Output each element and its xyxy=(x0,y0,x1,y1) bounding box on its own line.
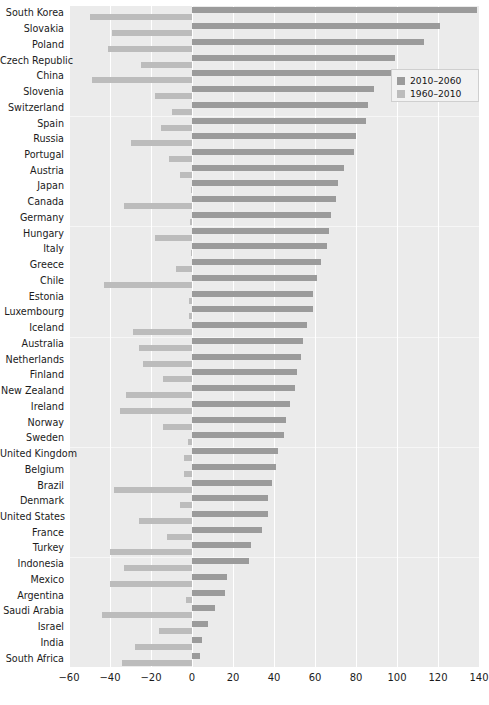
bar-2010-2060 xyxy=(192,480,272,486)
y-tick-label: Norway xyxy=(0,418,64,428)
bar-2010-2060 xyxy=(192,354,301,360)
y-tick-label: Brazil xyxy=(0,481,64,491)
bar-group xyxy=(69,494,479,510)
bar-2010-2060 xyxy=(192,432,284,438)
bar-group xyxy=(69,447,479,463)
bar-2010-2060 xyxy=(192,653,200,659)
bar-group xyxy=(69,132,479,148)
y-tick-label: Sweden xyxy=(0,433,64,443)
bar-2010-2060 xyxy=(192,118,366,124)
bar-1960-2010 xyxy=(184,471,192,477)
bar-2010-2060 xyxy=(192,70,393,76)
bar-2010-2060 xyxy=(192,196,336,202)
bar-group xyxy=(69,337,479,353)
bar-group xyxy=(69,604,479,620)
x-tick-label: 40 xyxy=(268,672,281,683)
legend-swatch-1960-2010 xyxy=(397,90,405,98)
bar-group xyxy=(69,148,479,164)
bar-1960-2010 xyxy=(108,46,192,52)
bar-1960-2010 xyxy=(139,518,192,524)
bar-group xyxy=(69,258,479,274)
bar-group xyxy=(69,557,479,573)
y-tick-label: Indonesia xyxy=(0,559,64,569)
y-axis-labels: South KoreaSlovakiaPolandCzech RepublicC… xyxy=(0,6,64,667)
bar-group xyxy=(69,541,479,557)
y-tick-label: France xyxy=(0,528,64,538)
bar-2010-2060 xyxy=(192,605,215,611)
bar-1960-2010 xyxy=(124,203,192,209)
x-tick-label: 100 xyxy=(387,672,406,683)
bar-group xyxy=(69,211,479,227)
bar-2010-2060 xyxy=(192,243,327,249)
y-tick-label: Poland xyxy=(0,40,64,50)
bar-2010-2060 xyxy=(192,23,440,29)
bar-1960-2010 xyxy=(189,298,192,304)
bar-1960-2010 xyxy=(135,644,192,650)
bar-2010-2060 xyxy=(192,511,268,517)
y-tick-label: Hungary xyxy=(0,229,64,239)
x-axis-labels: −60−40−20020406080100120140 xyxy=(69,668,479,688)
bar-2010-2060 xyxy=(192,275,317,281)
bar-group xyxy=(69,274,479,290)
y-tick-label: Ireland xyxy=(0,402,64,412)
y-tick-label: Italy xyxy=(0,244,64,254)
y-tick-label: Chile xyxy=(0,276,64,286)
y-tick-label: Austria xyxy=(0,166,64,176)
bar-2010-2060 xyxy=(192,385,295,391)
bar-1960-2010 xyxy=(159,628,192,634)
bar-group xyxy=(69,588,479,604)
bar-2010-2060 xyxy=(192,322,307,328)
bar-1960-2010 xyxy=(114,487,192,493)
y-tick-label: Estonia xyxy=(0,292,64,302)
x-tick-label: 80 xyxy=(350,672,363,683)
bar-1960-2010 xyxy=(122,660,192,666)
y-tick-label: Japan xyxy=(0,181,64,191)
bar-group xyxy=(69,37,479,53)
bar-2010-2060 xyxy=(192,637,202,643)
y-tick-label: New Zealand xyxy=(0,386,64,396)
bar-2010-2060 xyxy=(192,417,286,423)
y-tick-label: Luxembourg xyxy=(0,307,64,317)
bar-2010-2060 xyxy=(192,86,374,92)
bar-group xyxy=(69,22,479,38)
plot-area xyxy=(69,6,479,667)
bar-group xyxy=(69,195,479,211)
bar-group xyxy=(69,651,479,667)
bar-group xyxy=(69,525,479,541)
y-tick-label: Finland xyxy=(0,370,64,380)
bar-2010-2060 xyxy=(192,401,290,407)
bar-group xyxy=(69,415,479,431)
bar-1960-2010 xyxy=(155,93,192,99)
y-tick-label: India xyxy=(0,638,64,648)
legend-label-2010-2060: 2010–2060 xyxy=(410,75,461,86)
y-tick-label: Germany xyxy=(0,213,64,223)
y-tick-label: China xyxy=(0,71,64,81)
bar-1960-2010 xyxy=(161,125,192,131)
bar-2010-2060 xyxy=(192,574,227,580)
y-tick-label: Argentina xyxy=(0,591,64,601)
legend-label-1960-2010: 1960–2010 xyxy=(410,88,461,99)
bar-2010-2060 xyxy=(192,495,268,501)
bar-1960-2010 xyxy=(184,455,192,461)
y-tick-label: Belgium xyxy=(0,465,64,475)
bar-2010-2060 xyxy=(192,291,313,297)
y-tick-label: Netherlands xyxy=(0,355,64,365)
y-tick-label: Australia xyxy=(0,339,64,349)
bar-2010-2060 xyxy=(192,39,424,45)
y-tick-label: Slovakia xyxy=(0,24,64,34)
x-tick-label: 140 xyxy=(469,672,488,683)
bar-1960-2010 xyxy=(163,424,192,430)
bar-1960-2010 xyxy=(163,376,192,382)
bar-2010-2060 xyxy=(192,590,225,596)
bar-group xyxy=(69,636,479,652)
y-tick-label: Turkey xyxy=(0,543,64,553)
bar-2010-2060 xyxy=(192,621,208,627)
bar-1960-2010 xyxy=(167,534,192,540)
y-tick-label: Saudi Arabia xyxy=(0,606,64,616)
bar-group xyxy=(69,399,479,415)
bar-group xyxy=(69,100,479,116)
y-tick-label: Israel xyxy=(0,622,64,632)
bar-group xyxy=(69,384,479,400)
x-tick-label: −60 xyxy=(58,672,79,683)
y-tick-label: Greece xyxy=(0,260,64,270)
